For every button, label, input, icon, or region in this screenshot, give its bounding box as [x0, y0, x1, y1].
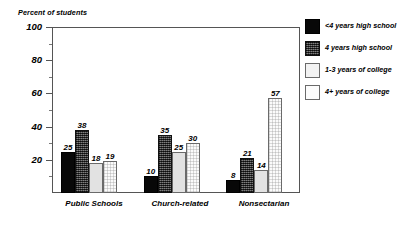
y-tick-label-20: 20	[2, 154, 42, 165]
bar-value-label-0-0: 25	[64, 144, 73, 152]
category-label-public-schools: Public Schools	[52, 199, 136, 208]
legend-item-1: 4 years high school	[305, 38, 411, 58]
bar-chart: Percent of students 20406080100 25381819…	[0, 0, 414, 226]
dark-hatch-swatch-icon	[305, 41, 320, 56]
category-label-church-related: Church-related	[138, 199, 222, 208]
legend-item-3: 4+ years of college	[305, 82, 411, 102]
bar-value-label-2-1: 21	[243, 150, 252, 158]
bar-1-2: 25	[172, 152, 186, 194]
y-tick-label-40: 40	[2, 121, 42, 132]
legend-label-2: 1-3 years of college	[325, 66, 392, 73]
bar-value-label-1-0: 10	[146, 168, 155, 176]
bar-1-3: 30	[186, 143, 200, 193]
bar-1-0: 10	[144, 176, 158, 193]
category-label-nonsectarian: Nonsectarian	[222, 199, 306, 208]
legend-label-0: <4 years high school	[325, 22, 396, 29]
bar-value-label-0-3: 19	[106, 153, 115, 161]
legend-item-0: <4 years high school	[305, 16, 411, 36]
bar-0-3: 19	[103, 161, 117, 193]
bar-value-label-1-1: 35	[160, 127, 169, 135]
bar-value-label-2-2: 14	[257, 162, 266, 170]
bar-value-label-2-3: 57	[271, 90, 280, 98]
bar-value-label-0-2: 18	[92, 155, 101, 163]
y-tick-label-100: 100	[2, 21, 42, 32]
y-tick-label-80: 80	[2, 54, 42, 65]
bar-0-0: 25	[61, 152, 75, 194]
y-tick-label-60: 60	[2, 87, 42, 98]
bar-0-2: 18	[89, 163, 103, 193]
bar-2-3: 57	[268, 98, 282, 193]
solid-black-swatch-icon	[305, 19, 320, 34]
bar-2-2: 14	[254, 170, 268, 193]
bar-value-label-0-1: 38	[78, 122, 87, 130]
bar-0-1: 38	[75, 130, 89, 193]
bar-2-1: 21	[240, 158, 254, 193]
legend-item-2: 1-3 years of college	[305, 60, 411, 80]
bar-2-0: 8	[226, 180, 240, 193]
legend-label-3: 4+ years of college	[325, 88, 390, 95]
bar-value-label-1-2: 25	[174, 144, 183, 152]
legend: <4 years high school 4 years high school…	[305, 16, 411, 104]
light-gray-swatch-icon	[305, 63, 320, 78]
bars-layer: 25381819103525308211457	[52, 27, 300, 193]
white-dotted-swatch-icon	[305, 85, 320, 100]
bar-value-label-2-0: 8	[231, 172, 235, 180]
bar-1-1: 35	[158, 135, 172, 193]
bar-value-label-1-3: 30	[188, 135, 197, 143]
legend-label-1: 4 years high school	[325, 44, 392, 51]
y-axis-title: Percent of students	[18, 8, 87, 17]
